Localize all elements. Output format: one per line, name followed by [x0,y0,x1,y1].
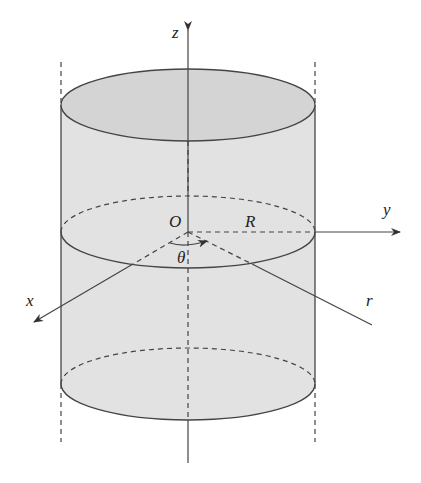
origin-label: O [169,212,181,231]
x-label: x [25,291,34,310]
y-label: y [381,200,391,219]
radius-label: R [244,212,256,231]
z-label: z [171,23,179,42]
cylinder-diagram: z y x r O R θ [0,0,421,483]
r-label: r [366,291,373,310]
theta-label: θ [177,248,185,267]
